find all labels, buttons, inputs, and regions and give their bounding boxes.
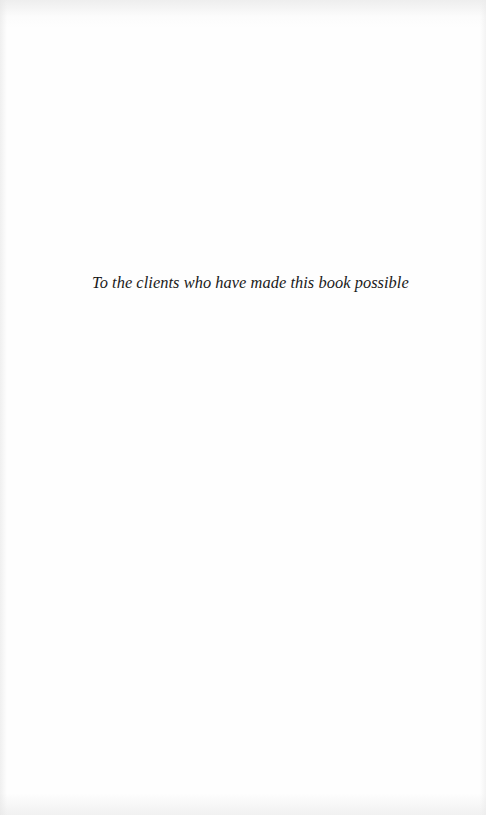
- dedication-text: To the clients who have made this book p…: [92, 273, 409, 293]
- scan-edge-bottom: [0, 793, 486, 815]
- scan-edge-left: [0, 0, 7, 815]
- scan-edge-top: [0, 0, 486, 28]
- book-page: To the clients who have made this book p…: [0, 0, 486, 815]
- scan-edge-right: [480, 0, 486, 815]
